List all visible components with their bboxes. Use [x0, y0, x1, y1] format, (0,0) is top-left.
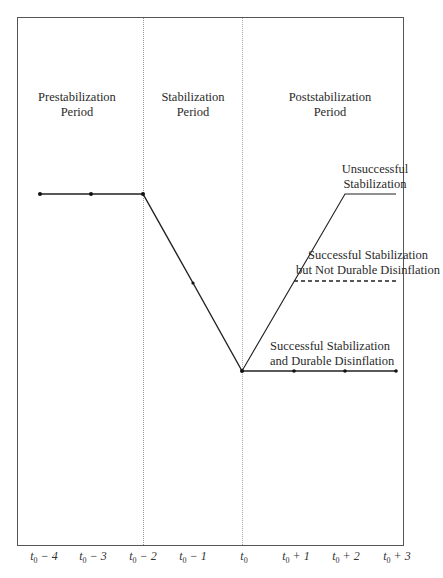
label-line: Stabilization — [148, 90, 238, 105]
label-poststabilization: Poststabilization Period — [270, 90, 390, 120]
label-line: and Durable Disinflation — [270, 354, 390, 369]
label-line: Successful Stabilization — [293, 248, 443, 263]
x-tick: t0 + 3 — [383, 549, 410, 565]
annotation-not-durable: Successful Stabilization but Not Durable… — [293, 248, 443, 278]
label-line: Period — [148, 105, 238, 120]
x-tick: t0 − 1 — [179, 549, 206, 565]
label-line: Period — [22, 105, 132, 120]
label-line: Prestabilization — [22, 90, 132, 105]
annotation-durable: Successful Stabilization and Durable Dis… — [270, 339, 390, 369]
label-line: Stabilization — [325, 177, 425, 192]
x-tick: t0 — [240, 549, 247, 565]
x-tick: t0 − 3 — [79, 549, 106, 565]
label-line: Successful Stabilization — [270, 339, 390, 354]
x-tick: t0 + 2 — [332, 549, 359, 565]
x-tick: t0 − 2 — [129, 549, 156, 565]
x-tick: t0 + 1 — [282, 549, 309, 565]
series-common-path — [40, 194, 242, 371]
label-stabilization: Stabilization Period — [148, 90, 238, 120]
label-line: Period — [270, 105, 390, 120]
label-line: but Not Durable Disinflation — [293, 263, 443, 278]
label-line: Unsuccessful — [325, 162, 425, 177]
annotation-unsuccessful: Unsuccessful Stabilization — [325, 162, 425, 192]
x-tick: t0 − 4 — [30, 549, 57, 565]
label-line: Poststabilization — [270, 90, 390, 105]
label-prestabilization: Prestabilization Period — [22, 90, 132, 120]
